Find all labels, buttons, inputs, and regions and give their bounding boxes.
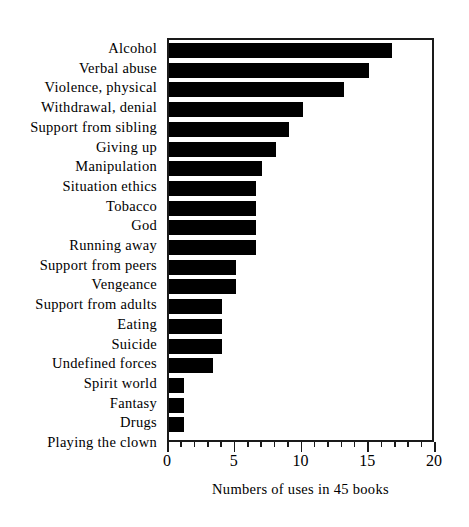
bar [169, 161, 262, 176]
x-axis-ticklabel-group: 05101520 [167, 452, 434, 476]
bar-row [169, 140, 432, 160]
y-axis-label: Support from sibling [30, 118, 157, 138]
x-axis-minor-tick [247, 442, 249, 447]
y-axis-label: Drugs [120, 413, 157, 433]
x-axis-minor-tick [207, 442, 209, 447]
bar-row [169, 356, 432, 376]
x-axis-minor-tick [314, 442, 316, 447]
bar [169, 43, 392, 58]
bar-row [169, 179, 432, 199]
bar [169, 122, 289, 137]
y-axis-label: Spirit world [84, 374, 157, 394]
x-axis-minor-tick [354, 442, 356, 447]
y-axis-label: Giving up [96, 138, 157, 158]
bar [169, 82, 344, 97]
y-axis-label: God [131, 216, 157, 236]
bar-row [169, 218, 432, 238]
bar-row [169, 258, 432, 278]
bar [169, 358, 213, 373]
y-axis-label: Withdrawal, denial [41, 98, 157, 118]
x-axis-ticklabel: 15 [359, 452, 375, 470]
x-axis-minor-tick [381, 442, 383, 447]
bar-row [169, 415, 432, 435]
x-axis-ticklabel: 5 [230, 452, 238, 470]
bar-row [169, 317, 432, 337]
plot-area [169, 40, 432, 440]
y-axis-label: Tobacco [106, 197, 157, 217]
bar [169, 181, 256, 196]
bar-chart: AlcoholVerbal abuseViolence, physicalWit… [0, 0, 469, 527]
y-axis-label: Alcohol [108, 39, 157, 59]
y-axis-label: Situation ethics [62, 177, 157, 197]
x-axis-minor-tick [220, 442, 222, 447]
bar-row [169, 297, 432, 317]
bar [169, 339, 222, 354]
bar-row [169, 277, 432, 297]
bar [169, 398, 184, 413]
bar-row [169, 376, 432, 396]
x-axis-major-tick [434, 442, 436, 452]
bar [169, 142, 276, 157]
x-axis-major-tick [367, 442, 369, 452]
x-axis-ticklabel: 20 [426, 452, 442, 470]
x-axis-minor-tick [180, 442, 182, 447]
x-axis-major-tick [301, 442, 303, 452]
bar-row [169, 337, 432, 357]
bar-row [169, 100, 432, 120]
y-axis-label: Running away [69, 236, 157, 256]
bar [169, 63, 369, 78]
x-axis-ticklabel: 0 [163, 452, 171, 470]
x-axis-major-tick [167, 442, 169, 452]
plot-frame [167, 38, 434, 442]
bar-row [169, 80, 432, 100]
x-axis-minor-tick [194, 442, 196, 447]
x-axis-minor-tick [407, 442, 409, 447]
x-axis-title: Numbers of uses in 45 books [167, 481, 434, 498]
y-axis-label: Fantasy [110, 394, 157, 414]
bar [169, 319, 222, 334]
x-axis-minor-tick [421, 442, 423, 447]
bar [169, 201, 256, 216]
bar-row [169, 396, 432, 416]
x-axis-minor-tick [260, 442, 262, 447]
bar [169, 220, 256, 235]
bar [169, 260, 236, 275]
bar-row [169, 199, 432, 219]
bar [169, 378, 184, 393]
y-axis-label: Manipulation [75, 157, 157, 177]
y-axis-label: Playing the clown [47, 433, 157, 453]
y-axis-label: Suicide [111, 335, 157, 355]
bar [169, 279, 236, 294]
x-axis-major-tick [234, 442, 236, 452]
x-axis-minor-tick [341, 442, 343, 447]
y-axis-label: Verbal abuse [79, 59, 157, 79]
x-axis-minor-tick [394, 442, 396, 447]
bar-row [169, 41, 432, 61]
x-axis-minor-tick [327, 442, 329, 447]
y-axis-label: Support from peers [40, 256, 157, 276]
bar-row [169, 238, 432, 258]
bar-row [169, 159, 432, 179]
bar-row [169, 120, 432, 140]
x-axis-minor-tick [287, 442, 289, 447]
bar [169, 417, 184, 432]
bar [169, 102, 303, 117]
bar [169, 240, 256, 255]
y-axis-label: Undefined forces [52, 354, 157, 374]
y-axis-label: Eating [117, 315, 157, 335]
y-axis-label: Violence, physical [45, 78, 157, 98]
y-axis-label-group: AlcoholVerbal abuseViolence, physicalWit… [0, 38, 163, 442]
bar [169, 299, 222, 314]
x-axis-minor-tick [274, 442, 276, 447]
y-axis-label: Support from adults [35, 295, 157, 315]
y-axis-label: Vengeance [92, 275, 158, 295]
bar-row [169, 61, 432, 81]
x-axis-ticklabel: 10 [293, 452, 309, 470]
